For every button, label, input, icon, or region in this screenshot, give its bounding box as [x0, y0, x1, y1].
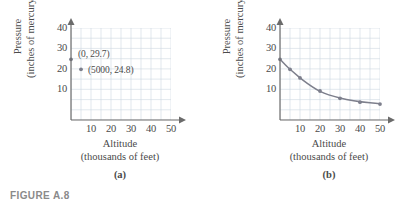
y-tick-20: 20 [43, 64, 67, 75]
x-tick-labels-b: 10 20 30 40 50 [280, 123, 390, 136]
panel-tag-b: (b) [249, 169, 409, 180]
y-tick-30: 30 [252, 43, 276, 54]
chart-panel-a: 40 30 20 10 10 20 30 40 50 (0, 29.7) (50… [0, 6, 209, 196]
y-axis-title-b: Pressure (inches of mercury) [221, 0, 246, 87]
y-tick-40: 40 [43, 23, 67, 34]
y-tick-10: 10 [252, 84, 276, 95]
x-axis-title-line1: Altitude [40, 137, 200, 150]
y-tick-30: 30 [43, 43, 67, 54]
annotation-point-0: (0, 29.7) [78, 49, 110, 59]
x-axis-title-a: Altitude (thousands of feet) [40, 137, 200, 163]
x-tick-50: 50 [161, 123, 181, 134]
x-tick-40: 40 [350, 123, 370, 134]
x-tick-labels-a: 10 20 30 40 50 [71, 123, 181, 136]
y-axis-title-line2: (inches of mercury) [233, 0, 246, 87]
panel-tag-a: (a) [40, 169, 200, 180]
x-axis-title-line2: (thousands of feet) [249, 150, 409, 163]
axes-a [60, 20, 190, 132]
y-axis-title-line1: Pressure [221, 0, 234, 87]
x-tick-30: 30 [330, 123, 350, 134]
x-tick-10: 10 [81, 123, 101, 134]
y-tick-labels-b: 40 30 20 10 [248, 28, 276, 120]
chart-panel-b: 40 30 20 10 10 20 30 40 50 Pressure (inc… [209, 6, 418, 196]
x-axis-title-line2: (thousands of feet) [40, 150, 200, 163]
y-tick-10: 10 [43, 84, 67, 95]
y-tick-20: 20 [252, 64, 276, 75]
x-axis-title-line1: Altitude [249, 137, 409, 150]
x-tick-10: 10 [290, 123, 310, 134]
x-tick-20: 20 [310, 123, 330, 134]
x-tick-40: 40 [141, 123, 161, 134]
y-axis-title-line2: (inches of mercury) [24, 0, 37, 87]
y-tick-40: 40 [252, 23, 276, 34]
figure-a8: 40 30 20 10 10 20 30 40 50 (0, 29.7) (50… [0, 0, 418, 214]
x-axis-title-b: Altitude (thousands of feet) [249, 137, 409, 163]
y-axis-title-line1: Pressure [12, 0, 25, 87]
x-tick-50: 50 [370, 123, 390, 134]
x-tick-20: 20 [101, 123, 121, 134]
figure-caption: FIGURE A.8 [10, 190, 70, 201]
y-axis-title-a: Pressure (inches of mercury) [12, 0, 37, 87]
axes-b [269, 20, 399, 132]
annotation-point-5000: (5000, 24.8) [88, 65, 134, 75]
y-tick-labels-a: 40 30 20 10 [39, 28, 67, 120]
x-tick-30: 30 [121, 123, 141, 134]
